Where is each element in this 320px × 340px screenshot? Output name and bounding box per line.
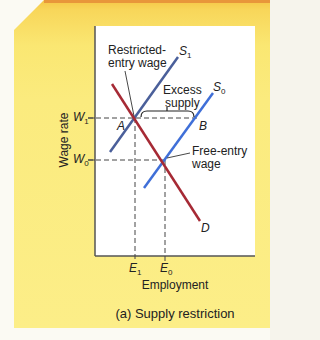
excess-line-2: supply: [163, 97, 202, 110]
restricted-line-2: entry wage: [108, 57, 167, 70]
free-line-2: wage: [192, 158, 247, 171]
d-label: D: [201, 222, 210, 235]
y-axis-title: Wage rate: [57, 108, 71, 172]
figure-caption: (a) Supply restriction: [60, 306, 270, 321]
x-axis-title: Employment: [95, 278, 255, 292]
w0-tick-label: W0: [73, 153, 89, 170]
excess-supply-annotation: Excess supply: [163, 84, 202, 110]
w1-tick-label: W1: [73, 111, 89, 128]
e0-tick-label: E0: [160, 262, 172, 279]
e1-tick-label: E1: [129, 262, 141, 279]
s1-label: S1: [179, 45, 191, 62]
free-entry-wage-pointer: [167, 153, 190, 158]
excess-supply-bracket: [141, 111, 194, 117]
s0-label: S0: [213, 81, 225, 98]
restricted-wage-annotation: Restricted- entry wage: [108, 44, 167, 70]
point-a-label: A: [117, 120, 125, 133]
point-b-label: B: [199, 120, 207, 133]
free-entry-wage-annotation: Free-entry wage: [192, 145, 247, 171]
